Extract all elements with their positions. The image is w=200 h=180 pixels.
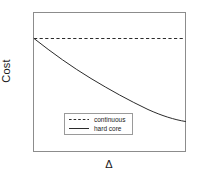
- legend-swatch-dashed-icon: [68, 116, 90, 123]
- legend-item-hard-core: hard core: [68, 125, 129, 132]
- y-axis-label: Cost: [0, 56, 12, 86]
- plot-canvas: [0, 0, 200, 180]
- x-axis-label: Δ: [84, 158, 134, 170]
- chart-figure: Cost Δ continuous hard core: [0, 0, 200, 180]
- chart-legend: continuous hard core: [64, 113, 133, 135]
- legend-swatch-solid-icon: [68, 125, 90, 132]
- legend-item-continuous: continuous: [68, 116, 129, 123]
- legend-label-continuous: continuous: [94, 116, 125, 123]
- legend-label-hard-core: hard core: [94, 125, 121, 132]
